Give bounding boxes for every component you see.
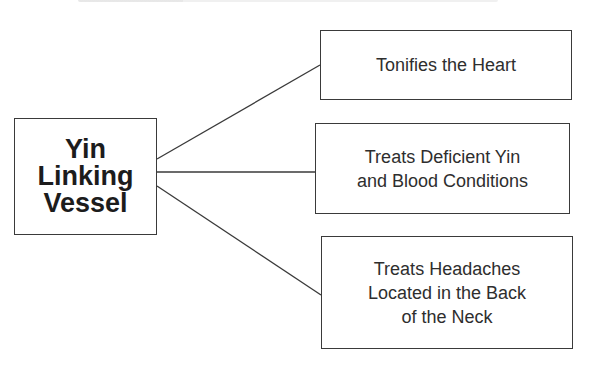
center-node-label: Yin Linking Vessel	[38, 136, 134, 217]
branch-node-label: Treats Headaches Located in the Back of …	[368, 257, 526, 329]
connector-to-branch-3	[157, 186, 321, 295]
branch-node-headaches: Treats Headaches Located in the Back of …	[321, 236, 573, 349]
connector-to-branch-1	[157, 65, 320, 159]
branch-node-label: Treats Deficient Yin and Blood Condition…	[357, 145, 528, 193]
branch-node-deficient-yin: Treats Deficient Yin and Blood Condition…	[315, 123, 570, 214]
branch-node-label: Tonifies the Heart	[376, 53, 516, 77]
branch-node-tonifies-heart: Tonifies the Heart	[320, 30, 572, 100]
center-node: Yin Linking Vessel	[14, 118, 157, 235]
